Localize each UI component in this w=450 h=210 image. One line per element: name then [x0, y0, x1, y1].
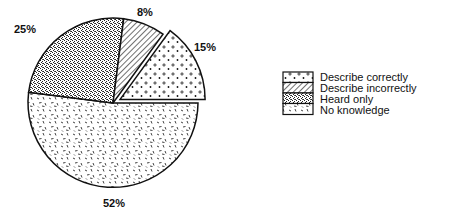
slice-heard-only: [29, 18, 124, 103]
label-no-knowledge-pct: 52%: [103, 197, 125, 209]
legend: Describe correctly Describe incorrectly …: [283, 71, 417, 116]
legend-swatch-heard-only: [283, 93, 313, 104]
label-describe-correctly-pct: 15%: [194, 41, 216, 53]
legend-swatch-describe-incorrectly: [283, 83, 313, 94]
legend-label-no-knowledge: No knowledge: [320, 104, 390, 116]
legend-swatch-no-knowledge: [283, 104, 313, 115]
label-describe-incorrectly-pct: 8%: [137, 6, 153, 18]
pie-chart: 25% 8% 15% 52% Describe correctly Descri…: [0, 0, 450, 210]
slice-no-knowledge: [28, 92, 198, 187]
legend-swatch-describe-correctly: [283, 72, 313, 83]
label-heard-only-pct: 25%: [14, 23, 36, 35]
